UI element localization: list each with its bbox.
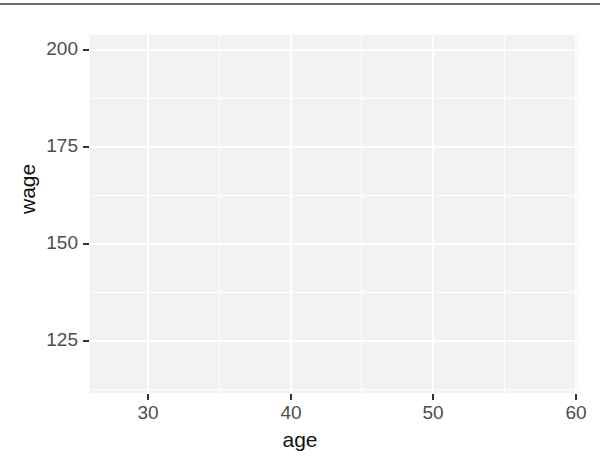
gridline-minor-y-162 <box>90 195 578 196</box>
gridline-major-y-175 <box>90 146 578 148</box>
y-axis-tick-125 <box>83 340 89 342</box>
y-axis-tick-175 <box>83 146 89 148</box>
x-axis-label-40: 40 <box>280 402 301 424</box>
y-axis-label-200: 200 <box>46 38 78 60</box>
gridline-minor-y-112 <box>90 389 578 390</box>
y-axis-tick-150 <box>83 243 89 245</box>
y-axis-label-175: 175 <box>46 135 78 157</box>
y-axis-label-125: 125 <box>46 329 78 351</box>
gridline-minor-y-187 <box>90 98 578 99</box>
x-axis-tick-50 <box>432 394 434 400</box>
plot-figure: 200 175 150 125 wage 30 40 50 60 age <box>0 0 600 467</box>
x-axis-tick-30 <box>147 394 149 400</box>
x-axis-tick-60 <box>575 394 577 400</box>
gridline-major-y-200 <box>90 49 578 51</box>
x-axis-label-30: 30 <box>137 402 158 424</box>
plot-panel <box>90 35 578 393</box>
x-axis-label-60: 60 <box>565 402 586 424</box>
top-divider-rule <box>0 3 600 5</box>
gridline-minor-y-137 <box>90 292 578 293</box>
gridline-major-y-150 <box>90 243 578 245</box>
x-axis-label-50: 50 <box>422 402 443 424</box>
gridline-major-y-125 <box>90 340 578 342</box>
y-axis-tick-200 <box>83 49 89 51</box>
y-axis-label-150: 150 <box>46 232 78 254</box>
x-axis-tick-40 <box>290 394 292 400</box>
y-axis-title: wage <box>16 164 40 214</box>
x-axis-title: age <box>0 428 600 452</box>
